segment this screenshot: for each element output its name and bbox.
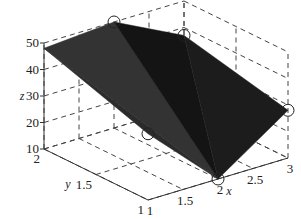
y-axis-line [44, 149, 148, 200]
z-tick-label: 30 [26, 88, 39, 103]
z-tick-label: 50 [26, 35, 39, 50]
grid-line-z-side [184, 1, 288, 52]
x-tick-label: 3 [287, 161, 294, 176]
z-tick-label: 40 [26, 62, 39, 77]
x-tick-label: 2 [217, 182, 224, 197]
x-tick-label: 1.5 [177, 193, 193, 208]
z-tick-label: 20 [26, 115, 39, 130]
y-tick-label: 1 [138, 202, 145, 217]
y-tick-label: 2 [34, 151, 41, 166]
surface-chart: 102030405011.5211.522.53zyx [0, 0, 301, 219]
x-tick-label: 1 [147, 203, 154, 218]
x-axis-label: x [225, 184, 232, 198]
y-axis-label: y [64, 177, 71, 191]
y-tick-label: 1.5 [76, 177, 92, 192]
z-axis-label: z [19, 89, 25, 103]
surface [44, 22, 288, 179]
x-tick-label: 2.5 [247, 172, 263, 187]
